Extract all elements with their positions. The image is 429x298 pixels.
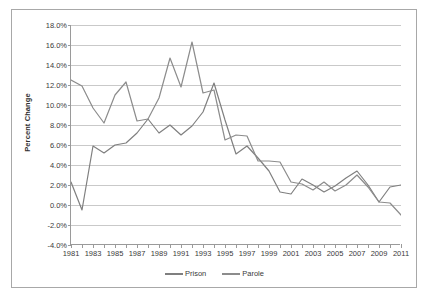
x-tick-label: 2005 bbox=[327, 249, 344, 258]
y-tick-label: 10.0% bbox=[46, 101, 67, 110]
x-tick-label: 1997 bbox=[239, 249, 256, 258]
plot-area: 18.0%16.0%14.0%12.0%10.0%8.0%6.0%4.0%2.0… bbox=[70, 25, 400, 245]
y-tick-label: -2.0% bbox=[47, 221, 67, 230]
y-tick-label: 16.0% bbox=[46, 41, 67, 50]
legend-item-prison[interactable]: Prison bbox=[165, 269, 206, 278]
x-tick-label: 1985 bbox=[107, 249, 124, 258]
y-tick-label: 4.0% bbox=[50, 161, 67, 170]
x-tick-label: 1987 bbox=[129, 249, 146, 258]
x-tick-label: 1993 bbox=[195, 249, 212, 258]
line-parole bbox=[71, 42, 401, 215]
x-tick-label: 2011 bbox=[393, 249, 409, 258]
y-tick-label: 2.0% bbox=[50, 181, 67, 190]
series-lines bbox=[71, 25, 401, 245]
legend-label: Prison bbox=[185, 269, 206, 278]
line-prison bbox=[71, 83, 401, 210]
x-tick-label: 2003 bbox=[305, 249, 322, 258]
legend-label: Parole bbox=[242, 269, 264, 278]
y-tick-label: 6.0% bbox=[50, 141, 67, 150]
x-tick-mark bbox=[401, 244, 402, 248]
x-tick-label: 1991 bbox=[173, 249, 190, 258]
x-tick-label: 1999 bbox=[261, 249, 278, 258]
y-tick-label: 12.0% bbox=[46, 81, 67, 90]
y-axis-title: Percent Change bbox=[23, 63, 32, 183]
legend-swatch bbox=[165, 273, 183, 275]
x-tick-label: 2001 bbox=[283, 249, 300, 258]
legend-item-parole[interactable]: Parole bbox=[222, 269, 264, 278]
x-tick-label: 1989 bbox=[151, 249, 168, 258]
x-tick-label: 1981 bbox=[63, 249, 80, 258]
x-tick-label: 1995 bbox=[217, 249, 234, 258]
y-tick-label: 0.0% bbox=[50, 201, 67, 210]
y-tick-label: 18.0% bbox=[46, 21, 67, 30]
x-tick-label: 2009 bbox=[371, 249, 388, 258]
x-tick-label: 1983 bbox=[85, 249, 102, 258]
y-tick-label: 8.0% bbox=[50, 121, 67, 130]
chart-legend: PrisonParole bbox=[0, 269, 429, 278]
y-tick-label: 14.0% bbox=[46, 61, 67, 70]
x-tick-label: 2007 bbox=[349, 249, 366, 258]
legend-swatch bbox=[222, 273, 240, 275]
chart-figure: Percent Change 18.0%16.0%14.0%12.0%10.0%… bbox=[0, 0, 429, 298]
